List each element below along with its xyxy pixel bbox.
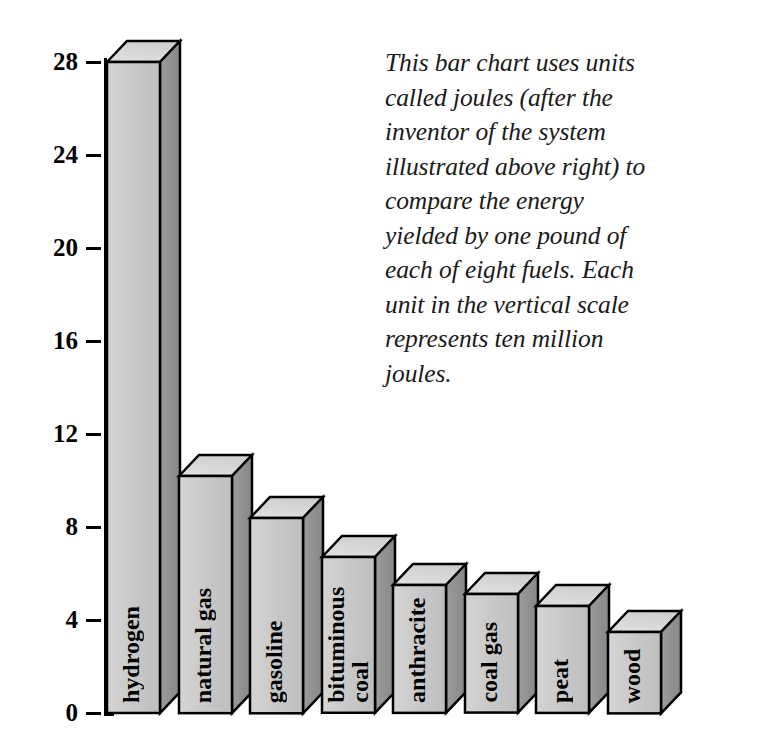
bar-label: bituminous coal — [324, 567, 371, 703]
y-tick-mark — [86, 154, 101, 157]
y-tick-mark — [86, 619, 101, 622]
y-tick-label: 24 — [53, 142, 78, 167]
chart-page: This bar chart uses units called joules … — [0, 0, 782, 748]
y-tick-label: 20 — [53, 235, 78, 260]
bar-peat[interactable]: peat — [536, 585, 609, 713]
y-tick-label: 16 — [53, 328, 78, 353]
bar-bituminous-coal[interactable]: bituminous coal — [322, 536, 395, 713]
y-tick-label: 0 — [66, 700, 79, 725]
bar-label: gasoline — [262, 528, 309, 703]
bar-natural-gas[interactable]: natural gas — [179, 455, 252, 713]
y-tick-mark — [86, 433, 101, 436]
bar-side-face — [374, 536, 394, 713]
bar-gasoline[interactable]: gasoline — [250, 497, 323, 713]
y-tick-label: 28 — [53, 49, 78, 74]
y-tick-label: 4 — [66, 607, 79, 632]
y-tick-mark — [86, 61, 101, 64]
bar-wood[interactable]: wood — [608, 611, 681, 713]
bar-label: peat — [548, 616, 595, 703]
y-tick-mark — [86, 526, 101, 529]
y-tick-mark — [86, 247, 101, 250]
y-tick-label: 8 — [66, 514, 79, 539]
bar-label: natural gas — [191, 486, 238, 703]
y-tick-label: 12 — [53, 421, 78, 446]
y-tick-mark — [86, 712, 101, 715]
y-tick-mark — [86, 340, 101, 343]
bar-label: coal gas — [477, 604, 524, 703]
bar-coal-gas[interactable]: coal gas — [465, 573, 538, 713]
bar-label: wood — [620, 642, 667, 703]
bar-label: hydrogen — [119, 72, 166, 703]
bar-hydrogen[interactable]: hydrogen — [107, 41, 180, 713]
bar-label: anthracite — [405, 595, 452, 703]
bar-anthracite[interactable]: anthracite — [393, 564, 466, 713]
bar-chart-plot: 0481216202428 hydrogennatural gasgasolin… — [0, 0, 782, 748]
